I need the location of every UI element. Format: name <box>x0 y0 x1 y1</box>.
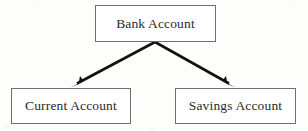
node-bank-account[interactable]: Bank Account <box>95 5 216 42</box>
node-savings-account-label: Savings Account <box>189 99 282 113</box>
node-savings-account[interactable]: Savings Account <box>175 88 296 124</box>
edge-root-savings <box>155 42 236 88</box>
diagram-canvas: Bank Account Current Account Savings Acc… <box>0 0 308 131</box>
node-current-account[interactable]: Current Account <box>11 88 131 124</box>
edge-root-current-line <box>77 42 155 84</box>
edge-root-savings-line <box>155 42 229 84</box>
node-current-account-label: Current Account <box>25 99 117 113</box>
node-bank-account-label: Bank Account <box>116 17 195 31</box>
edge-root-current <box>71 42 156 88</box>
